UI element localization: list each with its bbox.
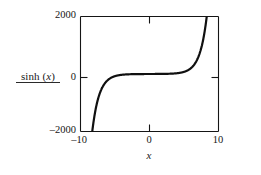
plot-area [0, 0, 261, 175]
figure-sinh-plot: sinh (x) 2000 0 –2000 –10 0 10 x [0, 0, 261, 175]
series-sinh-curve [91, 6, 208, 143]
